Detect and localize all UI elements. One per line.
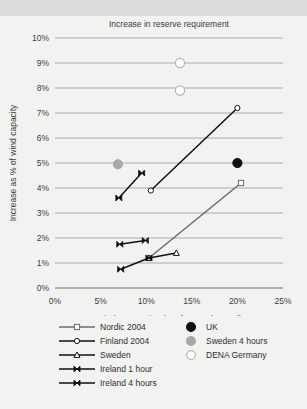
legend-marker-icon [56, 334, 98, 348]
legend-label: DENA Germany [204, 350, 266, 360]
scatter-marker-dena-germany-1 [175, 86, 184, 95]
xtick-label-5%: 5% [94, 296, 107, 306]
legend-symbol-dot [183, 334, 199, 348]
scatter-marker-sweden-4-hours-0 [113, 160, 122, 169]
legend-item-finland-2004[interactable]: Finland 2004 [56, 334, 157, 348]
series-marker-ireland-4-hours-1 [139, 170, 145, 176]
legend-symbol-dot [183, 348, 199, 362]
legend-marker-icon [178, 320, 204, 334]
ytick-label-7%: 7% [37, 108, 50, 118]
top-banner-strip [0, 0, 307, 16]
ytick-label-2%: 2% [37, 233, 50, 243]
legend-marker-icon [56, 376, 98, 390]
ytick-label-3%: 3% [37, 208, 50, 218]
ytick-label-1%: 1% [37, 258, 50, 268]
legend-item-sweden-4-hours[interactable]: Sweden 4 hours [178, 334, 267, 348]
chart-legend: Nordic 2004Finland 2004SwedenIreland 1 h… [0, 316, 307, 409]
legend-item-dena-germany[interactable]: DENA Germany [178, 348, 267, 362]
legend-marker-icon [56, 320, 98, 334]
series-marker-ireland-1-hour-0 [117, 241, 123, 247]
series-marker-nordic-2004-1 [238, 180, 243, 185]
scatter-marker-uk-0 [233, 158, 242, 167]
legend-label: Ireland 1 hour [98, 364, 152, 374]
legend-marker-icon [56, 362, 98, 376]
xtick-label-20%: 20% [229, 296, 246, 306]
ytick-label-5%: 5% [37, 158, 50, 168]
legend-label: Ireland 4 hours [98, 378, 157, 388]
legend-label: Sweden [98, 350, 131, 360]
scatter-marker-dena-germany-0 [175, 58, 184, 67]
series-line-ireland-1-hour [120, 241, 146, 245]
series-marker-ireland-4-hours-low--0 [118, 266, 124, 272]
ytick-label-4%: 4% [37, 183, 50, 193]
y-axis-label: Increase as % of wind capacity [8, 104, 18, 221]
legend-symbol-open-square [56, 320, 98, 334]
chart-figure: Increase in reserve requirement0%1%2%3%4… [0, 16, 307, 409]
xtick-label-0%: 0% [49, 296, 62, 306]
legend-label: UK [204, 322, 218, 332]
plot-area-wrapper: Increase in reserve requirement0%1%2%3%4… [0, 16, 307, 316]
legend-line-series-column: Nordic 2004Finland 2004SwedenIreland 1 h… [56, 320, 157, 390]
ytick-label-8%: 8% [37, 83, 50, 93]
series-marker-finland-2004-1 [235, 105, 240, 110]
series-line-nordic-2004 [149, 183, 241, 258]
ytick-label-0%: 0% [37, 283, 50, 293]
legend-item-uk[interactable]: UK [178, 320, 267, 334]
legend-point-series-column: UKSweden 4 hoursDENA Germany [178, 320, 267, 362]
legend-item-ireland-4-hours[interactable]: Ireland 4 hours [56, 376, 157, 390]
chart-title: Increase in reserve requirement [109, 19, 230, 29]
series-marker-ireland-4-hours-0 [116, 195, 122, 201]
ytick-label-10%: 10% [32, 33, 49, 43]
legend-symbol-dot [183, 320, 199, 334]
legend-item-ireland-1-hour[interactable]: Ireland 1 hour [56, 362, 157, 376]
series-line-ireland-4-hours [119, 173, 142, 198]
ytick-label-6%: 6% [37, 133, 50, 143]
legend-marker-icon [56, 348, 98, 362]
legend-item-sweden[interactable]: Sweden [56, 348, 157, 362]
legend-symbol-bowtie [56, 362, 98, 376]
legend-symbol-open-circle [56, 334, 98, 348]
reserve-requirement-chart: Increase in reserve requirement0%1%2%3%4… [0, 16, 307, 316]
legend-marker-icon [178, 348, 204, 362]
series-line-finland-2004 [151, 108, 238, 191]
xtick-label-25%: 25% [274, 296, 291, 306]
xtick-label-10%: 10% [138, 296, 155, 306]
legend-item-nordic-2004[interactable]: Nordic 2004 [56, 320, 157, 334]
series-line-ireland-4-hours-low- [121, 258, 149, 269]
xtick-label-15%: 15% [183, 296, 200, 306]
legend-symbol-bowtie [56, 376, 98, 390]
legend-label: Nordic 2004 [98, 322, 146, 332]
series-marker-finland-2004-0 [148, 188, 153, 193]
legend-symbol-open-triangle [56, 348, 98, 362]
legend-label: Sweden 4 hours [204, 336, 267, 346]
ytick-label-9%: 9% [37, 58, 50, 68]
legend-marker-icon [178, 334, 204, 348]
legend-label: Finland 2004 [98, 336, 149, 346]
